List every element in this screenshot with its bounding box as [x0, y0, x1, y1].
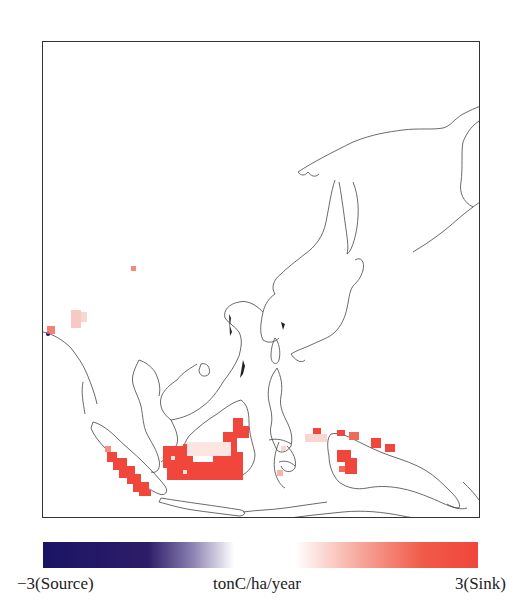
- colorbar-max-label: 3(Sink): [455, 574, 506, 594]
- heat-cells: [47, 266, 395, 496]
- colorbar-source-segment: [43, 542, 234, 568]
- map-panel: [42, 41, 480, 518]
- coastline-dark-segments: [46, 314, 285, 378]
- colorbar-unit-label: tonC/ha/year: [0, 574, 514, 594]
- colorbar-sink-segment: [295, 542, 478, 568]
- colorbar: [43, 542, 478, 568]
- coastline-map: [43, 42, 480, 518]
